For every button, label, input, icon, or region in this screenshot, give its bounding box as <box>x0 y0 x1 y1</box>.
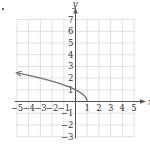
y-tick-label: 5 <box>68 38 73 48</box>
y-tick-label: −3 <box>61 132 74 142</box>
x-tick-label: −3 <box>34 103 47 113</box>
tick-labels: xy−5−4−3−2−112345−3−2−11234567 <box>11 0 150 142</box>
x-tick-label: 3 <box>108 103 113 113</box>
y-tick-label: −1 <box>61 108 74 118</box>
x-tick-label: 1 <box>84 103 89 113</box>
curve-arrow-shaft <box>16 73 19 74</box>
y-axis-label: y <box>72 0 79 9</box>
curve-path <box>19 73 87 101</box>
y-tick-label: 7 <box>68 15 73 25</box>
x-axis-label: x <box>148 97 150 107</box>
y-tick-label: −2 <box>61 120 74 130</box>
y-tick-label: 3 <box>68 61 73 71</box>
axes <box>15 8 146 139</box>
x-tick-label: −5 <box>11 103 24 113</box>
x-tick-label: 4 <box>120 103 125 113</box>
y-tick-label: 4 <box>68 50 73 60</box>
x-tick-label: 5 <box>131 103 136 113</box>
y-tick-label: 2 <box>68 73 73 83</box>
x-tick-label: 2 <box>96 103 101 113</box>
x-axis-arrow-icon <box>140 99 146 103</box>
x-tick-label: −2 <box>46 103 59 113</box>
y-tick-label: 6 <box>68 26 73 36</box>
x-tick-label: −4 <box>22 103 35 113</box>
coordinate-plane: xy−5−4−3−2−112345−3−2−11234567 <box>0 0 150 146</box>
